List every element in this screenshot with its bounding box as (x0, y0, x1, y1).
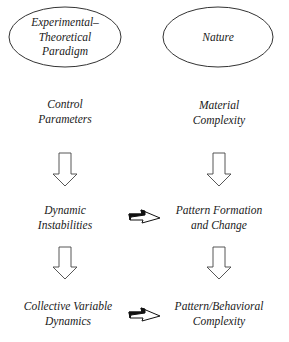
down-arrow-icon (53, 247, 77, 279)
node-line: Material (193, 98, 245, 113)
node-line: and Change (176, 218, 263, 233)
node-line: Control (38, 97, 92, 112)
node-nature-line: Nature (202, 30, 234, 45)
bidirectional-arrow-icon (129, 308, 160, 321)
node-pattern-formation: Pattern Formation and Change (176, 203, 263, 233)
node-dynamic-instabilities: Dynamic Instabilities (38, 203, 92, 233)
down-arrow-icon (207, 153, 231, 186)
down-arrow-icon (53, 153, 77, 186)
diagram-canvas: Experimental– Theoretical Paradigm Natur… (0, 0, 289, 342)
node-paradigm: Experimental– Theoretical Paradigm (31, 15, 99, 59)
node-behavioral-complexity: Pattern/Behavioral Complexity (175, 299, 264, 329)
down-arrow-icon (207, 247, 231, 279)
node-line: Collective Variable (24, 299, 112, 314)
bidirectional-arrow-icon (129, 210, 160, 223)
node-paradigm-line: Paradigm (31, 44, 99, 59)
node-collective-dynamics: Collective Variable Dynamics (24, 299, 112, 329)
node-line: Pattern Formation (176, 203, 263, 218)
node-line: Complexity (193, 113, 245, 128)
node-paradigm-line: Experimental– (31, 15, 99, 30)
node-material-complexity: Material Complexity (193, 98, 245, 128)
node-line: Pattern/Behavioral (175, 299, 264, 314)
node-nature: Nature (202, 30, 234, 45)
node-line: Complexity (175, 314, 264, 329)
node-line: Parameters (38, 112, 92, 127)
node-line: Instabilities (38, 218, 92, 233)
node-line: Dynamic (38, 203, 92, 218)
node-line: Dynamics (24, 314, 112, 329)
node-paradigm-line: Theoretical (31, 30, 99, 45)
node-control-parameters: Control Parameters (38, 97, 92, 127)
